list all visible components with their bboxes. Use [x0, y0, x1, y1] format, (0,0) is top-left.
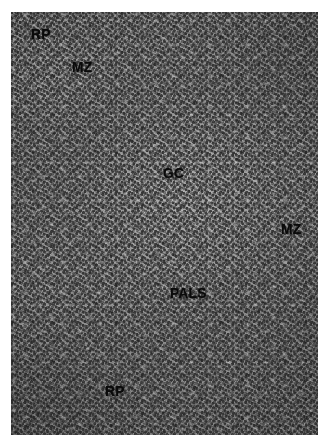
annotation-label-mz-right: MZ — [281, 221, 301, 236]
micrograph-texture-stack — [11, 12, 318, 435]
annotation-label-pals: PALS — [170, 285, 207, 300]
film-grain-layer — [11, 12, 318, 435]
histology-micrograph-image — [11, 12, 318, 435]
annotation-label-rp-top: RP — [31, 26, 51, 41]
annotation-label-rp-bottom: RP — [105, 383, 125, 398]
annotation-label-mz-top: MZ — [72, 59, 92, 74]
figure-root: RP MZ GC MZ PALS RP — [0, 0, 331, 446]
annotation-label-gc: GC — [163, 165, 184, 180]
